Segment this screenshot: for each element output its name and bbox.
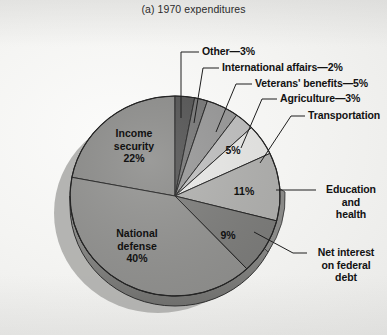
callout-agriculture: Agriculture—3% [280,92,360,105]
inside-label-national-defense: National defense 40% [96,227,178,265]
income-security-line2: security [114,140,154,152]
pie-chart-graphic [0,0,387,335]
callout-net-interest-line3: debt [335,271,357,283]
inside-label-net-interest-pct: 9% [214,229,242,242]
callout-education-health-line2: and [342,196,360,208]
callout-education-health-line1: Education [326,183,376,195]
callout-education-health-line3: health [336,208,366,220]
income-security-line1: Income [116,127,153,139]
callout-net-interest: Net interest on federal debt [310,246,382,284]
callout-education-health: Education and health [319,183,383,221]
figure-container: (a) 1970 expenditures [0,0,387,335]
callout-veterans-benefits: Veterans' benefits—5% [255,77,368,90]
national-defense-pct: 40% [126,252,147,264]
callout-transportation: Transportation [308,109,380,122]
callout-net-interest-line2: on federal [321,259,370,271]
income-security-pct: 22% [123,152,144,164]
callout-international-affairs: International affairs—2% [222,61,343,74]
inside-label-transportation-pct: 5% [219,144,247,157]
callout-net-interest-line1: Net interest [318,246,375,258]
callout-other: Other—3% [202,45,255,58]
inside-label-education-health-pct: 11% [228,185,260,198]
inside-label-income-security: Income security 22% [96,127,172,165]
national-defense-line2: defense [117,240,157,252]
national-defense-line1: National [116,227,157,239]
